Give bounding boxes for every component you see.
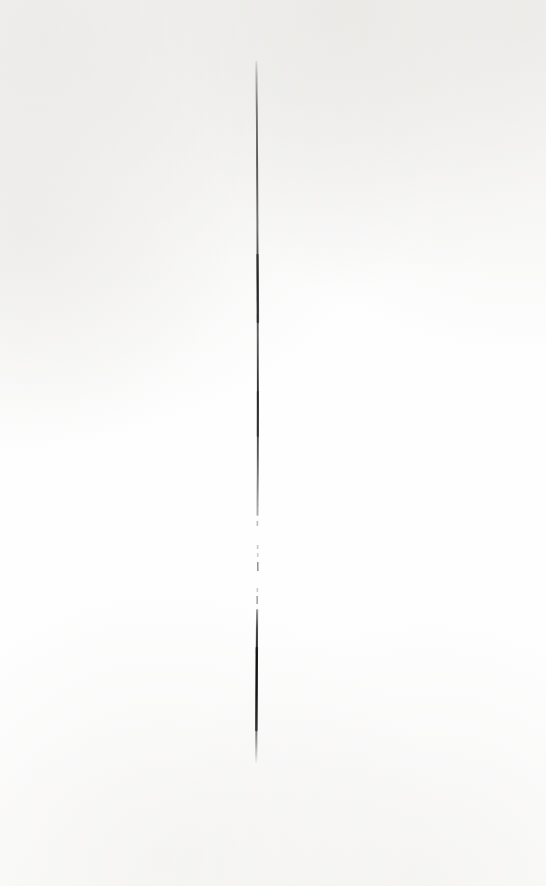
scanned-page: A single thin near-vertical ink line dra… <box>0 0 546 886</box>
ink-dash <box>257 553 259 557</box>
ink-dash <box>256 596 258 604</box>
ink-dash <box>257 545 259 549</box>
stroke-segment-lower <box>256 610 257 762</box>
paper-texture <box>0 0 546 886</box>
stroke-segment-upper <box>256 62 258 515</box>
ink-dash <box>257 588 259 592</box>
stroke-segment-middle-broken <box>256 521 258 604</box>
ink-dash <box>257 521 259 526</box>
ink-dash <box>257 562 259 571</box>
vertical-ink-stroke <box>0 0 546 886</box>
